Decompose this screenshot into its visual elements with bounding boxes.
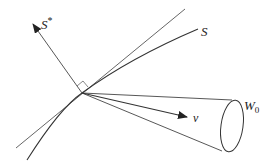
- s-star-arrow: [33, 24, 82, 93]
- cone-base-ellipse: [217, 99, 246, 154]
- v-arrow: [82, 93, 187, 117]
- label-s-star: S*: [41, 15, 53, 32]
- label-v: v: [193, 111, 199, 125]
- cone-edge-top: [82, 93, 232, 100]
- right-angle-marker: [77, 81, 88, 87]
- label-s: S: [201, 24, 208, 39]
- cone-edge-bottom: [82, 93, 222, 151]
- label-w0: W0: [244, 98, 260, 115]
- diagram-canvas: S* S v W0: [0, 0, 274, 167]
